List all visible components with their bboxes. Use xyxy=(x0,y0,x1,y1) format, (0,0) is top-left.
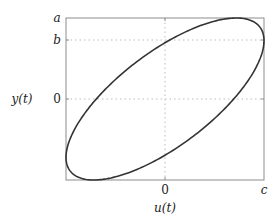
x-axis-label: u(t) xyxy=(154,201,176,215)
chart: a b 0 0 c y(t) u(t) xyxy=(0,0,278,224)
y-tick-label-b: b xyxy=(53,33,61,47)
y-tick-label-a: a xyxy=(53,11,60,25)
y-tick-label-0: 0 xyxy=(53,92,61,106)
x-tick-label-c: c xyxy=(261,183,268,197)
y-axis-label: y(t) xyxy=(11,92,33,106)
x-tick-label-0: 0 xyxy=(161,183,169,197)
